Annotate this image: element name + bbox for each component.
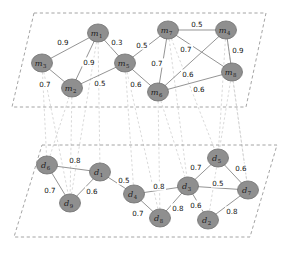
edge-weight-m7-m6: 0.7	[151, 59, 162, 68]
edge-weight-d4-d3: 0.8	[153, 182, 165, 191]
node-subscript-m7: 7	[169, 30, 173, 36]
interlayer-link	[47, 88, 72, 165]
node-subscript-d6: 6	[47, 165, 51, 171]
interlayer-link	[70, 88, 72, 203]
node-subscript-m4: 4	[227, 30, 231, 36]
edge-weight-m5-m6: 0.6	[130, 80, 142, 89]
node-d1[interactable]: d1	[90, 163, 111, 181]
multilayer-network-svg: 0.90.30.90.70.50.50.60.50.70.70.90.60.60…	[0, 0, 288, 254]
edge-weight-m3-m2: 0.7	[39, 80, 50, 89]
node-subscript-m8: 8	[233, 72, 237, 78]
edge-weight-d6-d1: 0.8	[69, 156, 81, 165]
node-m6[interactable]: m6	[148, 83, 169, 101]
edge-weight-d3-d7: 0.5	[212, 179, 223, 188]
edge-weight-m1-m3: 0.9	[57, 38, 69, 47]
node-d9[interactable]: d9	[60, 194, 81, 212]
node-m7[interactable]: m7	[158, 21, 179, 39]
node-m5[interactable]: m5	[115, 54, 136, 72]
interlayer-links-group	[42, 30, 248, 220]
edge-weight-d3-d2: 0.6	[190, 201, 202, 210]
node-subscript-d4: 4	[134, 194, 138, 200]
node-subscript-m1: 1	[99, 33, 102, 39]
edge-weight-d6-d9: 0.7	[44, 186, 55, 195]
node-d5[interactable]: d5	[208, 149, 229, 167]
edge-weight-m5-m7: 0.5	[136, 41, 147, 50]
node-subscript-d3: 3	[188, 186, 192, 192]
node-subscript-m3: 3	[43, 63, 47, 69]
interlayer-link	[158, 92, 188, 186]
node-m4[interactable]: m4	[216, 21, 237, 39]
interlayer-link	[208, 72, 232, 220]
node-subscript-d1: 1	[100, 172, 103, 178]
node-subscript-m6: 6	[159, 92, 163, 98]
interlayer-link	[218, 30, 226, 158]
node-subscript-d9: 9	[70, 203, 74, 209]
edge-weight-d3-d8: 0.8	[172, 204, 184, 213]
node-subscript-d5: 5	[218, 158, 222, 164]
node-subscript-d8: 8	[160, 218, 164, 224]
edge-weight-m7-m4: 0.5	[191, 20, 202, 29]
edge-weight-m7-m8: 0.7	[180, 45, 191, 54]
edge-weight-m4-m8: 0.9	[232, 46, 244, 55]
edge-weight-d3-d5: 0.7	[190, 163, 201, 172]
interlayer-link	[98, 33, 100, 172]
nodes-group: m1m2m3m4m5m6m7m8d1d2d3d4d5d6d7d8d9	[32, 21, 259, 229]
edge-weight-d2-d7: 0.8	[226, 207, 238, 216]
node-d8[interactable]: d8	[150, 209, 171, 227]
node-m2[interactable]: m2	[62, 79, 83, 97]
edge-weight-d4-d8: 0.7	[132, 209, 143, 218]
node-d6[interactable]: d6	[37, 156, 58, 174]
diagram-canvas: 0.90.30.90.70.50.50.60.50.70.70.90.60.60…	[0, 0, 288, 254]
edge-weight-d5-d7: 0.6	[235, 164, 247, 173]
node-m8[interactable]: m8	[222, 63, 243, 81]
node-d2[interactable]: d2	[198, 211, 219, 229]
node-subscript-d2: 2	[208, 220, 211, 226]
node-subscript-m2: 2	[73, 88, 76, 94]
interlayer-link	[158, 92, 160, 218]
interlayer-link	[42, 63, 47, 165]
edge-weight-m2-m5: 0.5	[94, 79, 105, 88]
node-subscript-m5: 5	[126, 63, 130, 69]
edge-weight-m4-m6: 0.6	[182, 70, 194, 79]
edge-weight-d1-d9: 0.6	[86, 187, 98, 196]
edge-weight-d1-d4: 0.5	[118, 176, 129, 185]
intralayer-edges-group	[42, 30, 248, 220]
edge-weight-m6-m8: 0.6	[193, 85, 205, 94]
node-m3[interactable]: m3	[32, 54, 53, 72]
node-subscript-d7: 7	[248, 190, 252, 196]
node-d3[interactable]: d3	[178, 177, 199, 195]
node-d4[interactable]: d4	[124, 185, 145, 203]
node-d7[interactable]: d7	[238, 181, 259, 199]
edge-weight-m1-m2: 0.9	[83, 58, 95, 67]
node-m1[interactable]: m1	[88, 24, 109, 42]
edge-weight-m1-m5: 0.3	[111, 38, 122, 47]
